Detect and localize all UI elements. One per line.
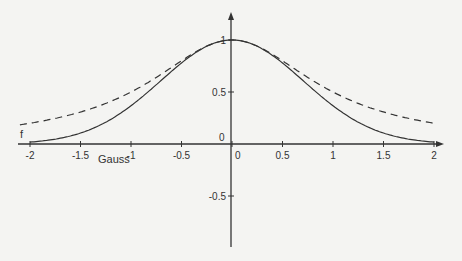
y-tick-label: -0.5 <box>209 191 227 202</box>
x-tick-label: 1.5 <box>377 150 391 161</box>
y-axis-arrow-icon <box>228 12 234 20</box>
x-tick-label: -1.5 <box>72 150 90 161</box>
x-tick-label: 0.5 <box>276 150 290 161</box>
x-tick-label: -0.5 <box>173 150 191 161</box>
y-tick-label: 0.5 <box>212 87 226 98</box>
x-tick-label: -2 <box>26 150 35 161</box>
label-gauss: Gauss <box>98 153 130 165</box>
curve-f <box>20 40 434 125</box>
label-f: f <box>20 128 24 140</box>
origin-label-y: 0 <box>219 132 225 143</box>
function-plot: -2-1.5-1-0.500.511.52 -0.50.51 f Gauss 0 <box>0 0 462 261</box>
axes <box>18 12 444 247</box>
y-ticks: -0.50.51 <box>209 35 234 202</box>
x-tick-label: 2 <box>431 150 437 161</box>
x-axis-arrow-icon <box>436 141 444 147</box>
x-tick-label: 1 <box>330 150 336 161</box>
chart-container: -2-1.5-1-0.500.511.52 -0.50.51 f Gauss 0 <box>0 0 462 261</box>
curve-gauss <box>30 40 434 142</box>
x-tick-label: 0 <box>235 150 241 161</box>
